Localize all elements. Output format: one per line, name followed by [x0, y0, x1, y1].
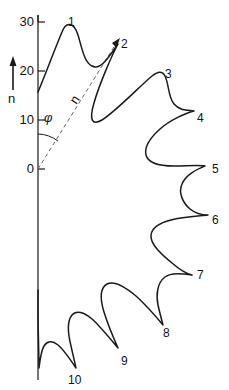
tick-label-0: 0 — [14, 162, 34, 175]
point-label-5: 5 — [212, 163, 219, 175]
point-label-3: 3 — [165, 68, 172, 80]
angle-arc-phi — [38, 134, 58, 141]
point-label-9: 9 — [121, 355, 128, 367]
axis-ticks — [38, 22, 45, 169]
star-contour-path — [38, 24, 208, 368]
point-label-4: 4 — [197, 112, 204, 124]
point-label-6: 6 — [212, 214, 219, 226]
tick-label-30: 30 — [14, 15, 34, 28]
point-label-8: 8 — [163, 327, 170, 339]
point-label-1: 1 — [68, 16, 75, 28]
point-label-7: 7 — [197, 269, 204, 281]
polar-star-figure — [0, 0, 229, 390]
angle-label-phi: φ — [44, 111, 52, 124]
point-label-10: 10 — [68, 374, 81, 386]
axis-label-n: n — [8, 92, 15, 105]
tick-label-20: 20 — [14, 64, 34, 77]
point-label-2: 2 — [121, 38, 128, 50]
tick-label-10: 10 — [14, 113, 34, 126]
